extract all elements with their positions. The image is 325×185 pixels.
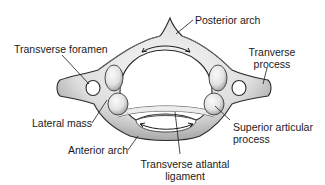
label-superior-articular-line1: Superior articular xyxy=(233,121,313,133)
label-transverse-foramen: Transverse foramen xyxy=(14,43,108,55)
label-anterior-arch: Anterior arch xyxy=(68,144,128,156)
label-transverse-ligament-line1: Transverse atlantal xyxy=(130,158,240,170)
label-tranverse-process-line1: Tranverse xyxy=(242,46,302,58)
atlas-vertebra-diagram: Posterior arch Transverse foramen Tranve… xyxy=(0,0,325,185)
leader-posterior-arch xyxy=(176,20,193,34)
label-superior-articular-line2: process xyxy=(233,133,313,145)
label-tranverse-process: Tranverse process xyxy=(242,46,302,70)
label-superior-articular-process: Superior articular process xyxy=(233,121,313,145)
label-tranverse-process-line2: process xyxy=(242,58,302,70)
label-posterior-arch: Posterior arch xyxy=(195,14,260,26)
leader-anterior-arch xyxy=(128,136,138,150)
label-transverse-atlantal-ligament: Transverse atlantal ligament xyxy=(130,158,240,182)
label-lateral-mass: Lateral mass xyxy=(32,117,92,129)
label-transverse-ligament-line2: ligament xyxy=(130,170,240,182)
